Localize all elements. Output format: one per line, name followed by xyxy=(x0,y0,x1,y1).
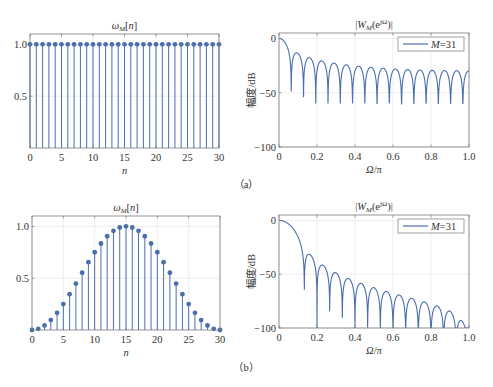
x-tick-label: 0.4 xyxy=(348,151,362,162)
y-tick-label: −100 xyxy=(254,142,276,153)
caption-b: （b） xyxy=(233,362,258,373)
x-tick-label: 0 xyxy=(276,151,281,162)
chart-title: ωM[n] xyxy=(113,202,139,215)
x-tick-label: 30 xyxy=(215,334,226,345)
x-axis-label: Ω/π xyxy=(366,345,383,356)
x-tick-label: 20 xyxy=(151,152,162,163)
legend: M=31 xyxy=(398,37,464,51)
legend: M=31 xyxy=(398,219,464,233)
x-tick-label: 0.4 xyxy=(348,332,362,343)
y-axis-label: 幅度/dB xyxy=(245,254,257,289)
x-tick-label: 0.8 xyxy=(424,332,437,343)
y-tick-label: −50 xyxy=(260,88,276,99)
y-tick-label: 1.0 xyxy=(16,221,29,232)
x-tick-label: 1.0 xyxy=(462,151,475,162)
x-tick-label: 0 xyxy=(27,152,32,163)
y-tick-label: 0.5 xyxy=(16,273,29,284)
x-axis-label: n xyxy=(123,347,128,358)
y-tick-label: 1.0 xyxy=(14,39,27,50)
chart-title: ωM[n] xyxy=(112,20,138,33)
x-tick-label: 10 xyxy=(89,334,100,345)
x-tick-label: 15 xyxy=(119,152,130,163)
x-tick-label: 10 xyxy=(88,152,99,163)
x-axis-label: n xyxy=(122,165,127,176)
figure: 0510152025300.51.0ωM[n]nM=3100.20.40.60.… xyxy=(0,0,493,387)
x-axis-label: Ω/π xyxy=(366,164,383,175)
chart-a-time: 0510152025300.51.0ωM[n]n xyxy=(14,20,224,176)
x-tick-label: 1.0 xyxy=(462,332,475,343)
x-tick-label: 25 xyxy=(183,334,194,345)
caption-a: （a） xyxy=(234,179,259,190)
chart-title: |WM(ejΩ)| xyxy=(355,200,393,214)
chart-title: |WM(ejΩ)| xyxy=(355,18,393,32)
chart-b-time: 0510152025300.51.0ωM[n]n xyxy=(16,202,225,358)
y-tick-label: −100 xyxy=(254,323,276,334)
y-tick-label: −50 xyxy=(260,269,276,280)
x-tick-label: 25 xyxy=(182,152,193,163)
chart-a-freq: M=3100.20.40.60.81.0−100−500|WM(ejΩ)|Ω/π… xyxy=(245,18,476,175)
legend-label: M=31 xyxy=(430,221,456,232)
x-tick-label: 5 xyxy=(61,334,66,345)
x-tick-label: 20 xyxy=(152,334,163,345)
x-tick-label: 0 xyxy=(276,332,281,343)
chart-b-freq: M=3100.20.40.60.81.0−100−500|WM(ejΩ)|Ω/π… xyxy=(245,200,476,356)
x-tick-label: 0.2 xyxy=(310,332,323,343)
legend-label: M=31 xyxy=(430,39,456,50)
x-tick-label: 0.8 xyxy=(424,151,437,162)
x-tick-label: 0 xyxy=(29,334,34,345)
y-axis-label: 幅度/dB xyxy=(245,72,257,107)
x-tick-label: 15 xyxy=(121,334,132,345)
y-tick-label: 0 xyxy=(271,215,276,226)
x-tick-label: 0.2 xyxy=(310,151,323,162)
x-tick-label: 30 xyxy=(214,152,225,163)
y-tick-label: 0 xyxy=(271,33,276,44)
x-tick-label: 5 xyxy=(59,152,64,163)
series xyxy=(28,42,222,148)
y-tick-label: 0.5 xyxy=(14,91,27,102)
x-tick-label: 0.6 xyxy=(386,332,399,343)
x-tick-label: 0.6 xyxy=(386,151,399,162)
